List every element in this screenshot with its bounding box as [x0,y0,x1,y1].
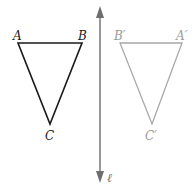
label-a: A [12,29,22,43]
label-b: B [77,29,87,43]
label-b-prime: B′ [113,29,126,43]
triangle-abc [18,43,82,124]
label-a-prime: A′ [175,29,188,43]
reflection-diagram: A B C ℓ B′ A′ C′ [0,0,196,190]
arrow-down-icon [96,171,104,183]
triangle-image [120,43,182,124]
arrow-up-icon [96,6,104,18]
label-line: ℓ [107,171,112,185]
label-c-prime: C′ [145,129,157,143]
label-c: C [45,129,54,143]
